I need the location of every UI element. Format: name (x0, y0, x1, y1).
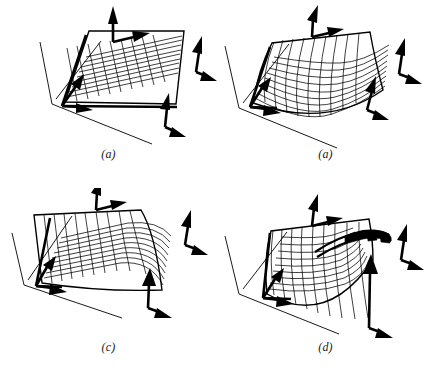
bottom-right-constraint (363, 254, 393, 338)
bottomright-constraint-downright-arrowhead (375, 328, 393, 338)
bottomright-constraint-downright-arrowhead (154, 308, 172, 318)
panel-a-label: (a) (0, 147, 217, 162)
bottomright-constraint-up-arrowhead (365, 76, 376, 94)
top-axis-indicator (108, 6, 150, 42)
top-axis-indicator (307, 5, 344, 37)
crease-node-b (380, 233, 390, 243)
right-axis-indicator (181, 210, 208, 255)
panel-d: (d) (217, 188, 434, 377)
bottomright-constraint-vertical (148, 284, 149, 308)
bottom-right-constraint (160, 93, 186, 137)
left-constraint-right-arrowhead (76, 103, 93, 113)
top-axis-up-arrowhead (308, 194, 318, 212)
left-constraint-horizontal (62, 106, 78, 107)
right-axis-vertical (185, 226, 188, 245)
top-axis-up-arrowhead (307, 5, 318, 23)
bottomright-constraint-vertical (165, 108, 167, 127)
panel-b-label: (a) (217, 147, 434, 162)
guide-line-bottom (52, 104, 152, 144)
bottomright-constraint-up-arrowhead (363, 254, 378, 274)
top-axis-indicator (308, 194, 343, 226)
mesh-boundary (253, 32, 383, 113)
panel-c: (c) (0, 188, 217, 377)
panel-c-label: (c) (0, 340, 217, 355)
right-axis-downright-arrowhead (200, 71, 217, 81)
guide-line-left (40, 42, 52, 104)
right-axis-vertical (196, 52, 199, 72)
top-axis-indicator (91, 188, 127, 210)
right-axis-downright-arrowhead (405, 74, 422, 84)
bottomright-constraint-up-arrowhead (142, 268, 156, 286)
right-axis-up-arrowhead (397, 224, 407, 242)
guide-line-bottom (239, 108, 337, 148)
guide-line-left (225, 236, 239, 294)
top-axis-up-arrowhead (108, 6, 118, 24)
panel-d-label: (d) (217, 340, 434, 355)
right-axis-downright-arrowhead (191, 245, 208, 255)
top-axis-right-arrowhead (326, 216, 343, 226)
bottomright-constraint-downright-arrowhead (169, 127, 186, 137)
bottomright-constraint-downright-arrowhead (372, 110, 389, 120)
guide-line-diagonal (243, 44, 289, 103)
panel-a: (a) (0, 0, 217, 189)
right-axis-downright-arrowhead (407, 260, 424, 270)
right-axis-indicator (395, 38, 422, 84)
right-axis-indicator (397, 224, 424, 270)
guide-line-left (225, 46, 239, 108)
bottomright-constraint-up-arrowhead (160, 93, 170, 110)
right-axis-vertical (401, 240, 404, 260)
right-axis-up-arrowhead (192, 36, 202, 54)
top-axis-horizontal (96, 206, 112, 210)
left-corner-constraint (263, 268, 294, 307)
right-axis-indicator (192, 36, 217, 81)
figure-canvas: (a) (0, 0, 434, 377)
top-axis-right-arrowhead (132, 31, 150, 42)
bottomright-constraint-vertical (369, 272, 370, 328)
right-axis-up-arrowhead (181, 210, 191, 228)
crease-node-a (367, 230, 377, 241)
mesh-boundary (34, 210, 162, 290)
guide-line-left (12, 233, 24, 285)
right-axis-up-arrowhead (395, 38, 405, 56)
right-axis-vertical (399, 54, 402, 74)
panel-b: (a) (217, 0, 434, 189)
top-axis-horizontal (113, 37, 134, 42)
top-axis-right-arrowhead (110, 200, 127, 210)
